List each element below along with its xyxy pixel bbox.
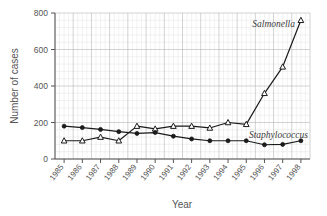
y-axis-title: Number of cases bbox=[9, 48, 20, 124]
x-tick-label: 1996 bbox=[248, 162, 266, 182]
x-axis-title: Year bbox=[172, 199, 193, 210]
y-tick-label: 200 bbox=[34, 118, 48, 128]
x-tick-label: 1989 bbox=[120, 162, 138, 182]
x-tick-label: 1991 bbox=[157, 162, 175, 182]
chart-container: 0200400600800 19851986198719881989199019… bbox=[0, 0, 327, 216]
x-tick-label: 1994 bbox=[212, 162, 230, 182]
y-tick-label: 400 bbox=[34, 81, 48, 91]
data-point-marker bbox=[190, 137, 194, 141]
series-label-staphylococcus: Staphylococcus bbox=[249, 130, 308, 140]
data-point-marker bbox=[171, 134, 175, 138]
x-tick-label: 1990 bbox=[139, 162, 157, 182]
data-point-marker bbox=[226, 139, 230, 143]
y-tick-label: 800 bbox=[34, 8, 48, 18]
x-axis-ticks: 1985198619871988198919901991199219931994… bbox=[48, 159, 303, 182]
data-point-marker bbox=[262, 143, 266, 147]
series-label-salmonella: Salmonella bbox=[252, 19, 295, 29]
y-tick-label: 0 bbox=[43, 154, 48, 164]
y-axis-ticks: 0200400600800 bbox=[34, 8, 55, 164]
data-point-marker bbox=[208, 139, 212, 143]
x-tick-label: 1998 bbox=[284, 162, 302, 182]
x-tick-label: 1992 bbox=[175, 162, 193, 182]
x-tick-label: 1997 bbox=[266, 162, 284, 182]
x-tick-label: 1995 bbox=[230, 162, 248, 182]
y-tick-label: 600 bbox=[34, 45, 48, 55]
data-point-marker bbox=[99, 127, 103, 131]
x-tick-label: 1985 bbox=[48, 162, 66, 182]
data-point-marker bbox=[117, 130, 121, 134]
data-point-marker bbox=[135, 131, 139, 135]
x-tick-label: 1988 bbox=[102, 162, 120, 182]
line-chart: 0200400600800 19851986198719881989199019… bbox=[0, 0, 327, 216]
data-point-marker bbox=[62, 124, 66, 128]
x-tick-label: 1987 bbox=[84, 162, 102, 182]
x-tick-label: 1986 bbox=[66, 162, 84, 182]
data-point-marker bbox=[153, 131, 157, 135]
data-point-marker bbox=[281, 142, 285, 146]
data-point-marker bbox=[244, 139, 248, 143]
data-point-marker bbox=[80, 126, 84, 130]
x-tick-label: 1993 bbox=[193, 162, 211, 182]
